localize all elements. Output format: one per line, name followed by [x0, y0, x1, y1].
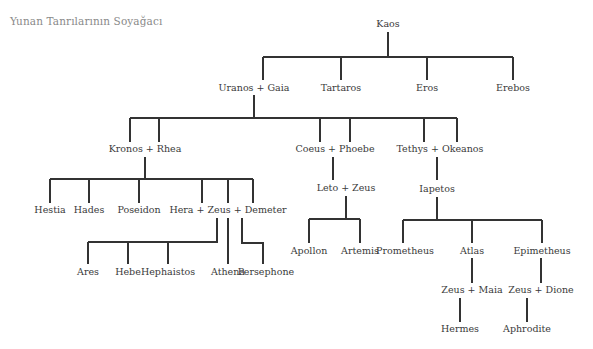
node-hestia: Hestia — [34, 205, 65, 215]
family-tree-diagram: Yunan Tanrılarının Soyağacı — [0, 0, 593, 349]
node-apollon: Apollon — [291, 246, 328, 256]
node-ares: Ares — [77, 267, 99, 277]
node-hebe: Hebe — [115, 267, 141, 277]
node-kaos: Kaos — [376, 19, 399, 29]
node-poseidon: Poseidon — [117, 205, 160, 215]
tree-connectors — [0, 0, 593, 349]
node-epimetheus: Epimetheus — [513, 246, 570, 256]
node-zeus-dione: Zeus + Dione — [508, 285, 573, 295]
node-persephone: Persephone — [238, 267, 294, 277]
node-hephaistos: Hephaistos — [141, 267, 195, 277]
node-artemis: Artemis — [341, 246, 379, 256]
node-leto-zeus: Leto + Zeus — [317, 183, 376, 193]
node-hera-zeus-demeter: Hera + Zeus + Demeter — [169, 205, 286, 215]
node-erebos: Erebos — [496, 83, 530, 93]
node-hades: Hades — [74, 205, 105, 215]
node-tethys-okeanos: Tethys + Okeanos — [397, 144, 484, 154]
node-tartaros: Tartaros — [321, 83, 361, 93]
node-aphrodite: Aphrodite — [503, 324, 551, 334]
node-uranos-gaia: Uranos + Gaia — [219, 83, 290, 93]
node-hermes: Hermes — [441, 324, 479, 334]
node-atlas: Atlas — [460, 246, 484, 256]
node-kronos-rhea: Kronos + Rhea — [109, 144, 182, 154]
node-eros: Eros — [416, 83, 438, 93]
node-zeus-maia: Zeus + Maia — [441, 285, 502, 295]
node-prometheus: Prometheus — [376, 246, 434, 256]
node-coeus-phoebe: Coeus + Phoebe — [295, 144, 374, 154]
node-iapetos: Iapetos — [419, 184, 455, 194]
